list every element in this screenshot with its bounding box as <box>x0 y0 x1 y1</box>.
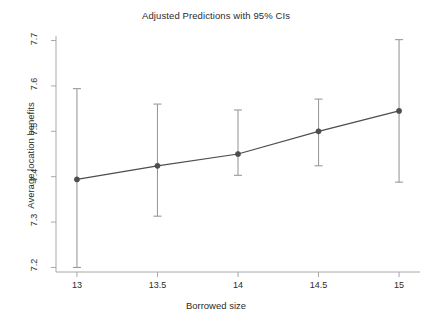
y-tick-label: 7.3 <box>29 207 39 233</box>
y-tick-label: 7.6 <box>29 71 39 97</box>
plot-area <box>0 0 432 324</box>
data-point-marker <box>155 163 160 168</box>
y-tick-label: 7.2 <box>29 252 39 278</box>
data-point-marker <box>74 177 79 182</box>
x-tick-label: 13.5 <box>137 280 177 290</box>
error-bar <box>234 110 242 175</box>
error-bar <box>153 104 161 216</box>
data-point-marker <box>396 108 401 113</box>
chart-container: Adjusted Predictions with 95% CIs Averag… <box>0 0 432 324</box>
data-point-marker <box>235 151 240 156</box>
x-tick-label: 14 <box>218 280 258 290</box>
x-tick-label: 15 <box>379 280 419 290</box>
y-tick-label: 7.7 <box>29 26 39 52</box>
data-point-marker <box>316 129 321 134</box>
y-tick-label: 7.4 <box>29 162 39 188</box>
x-tick-label: 13 <box>57 280 97 290</box>
x-tick-label: 14.5 <box>299 280 339 290</box>
y-tick-label: 7.5 <box>29 116 39 142</box>
